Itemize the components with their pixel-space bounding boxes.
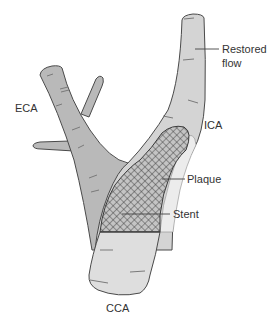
label-restored-flow-line1: Restored (222, 43, 267, 55)
cca-vessel (89, 232, 160, 295)
label-stent: Stent (173, 208, 199, 220)
carotid-stent-diagram: Restored flow ECA ICA Plaque Stent CCA (0, 0, 280, 323)
label-cca: CCA (106, 302, 130, 314)
label-ica: ICA (204, 119, 223, 131)
label-restored-flow-line2: flow (222, 57, 242, 69)
label-eca: ECA (15, 102, 38, 114)
label-plaque: Plaque (187, 173, 221, 185)
